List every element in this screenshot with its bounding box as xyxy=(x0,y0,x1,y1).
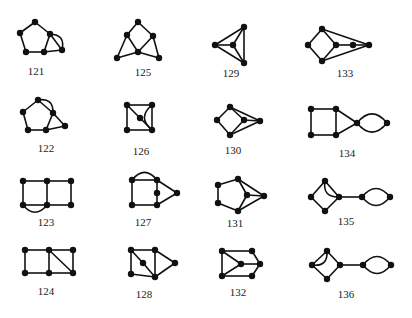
vertex-dot xyxy=(59,47,65,53)
vertex-dot xyxy=(129,177,135,183)
vertex-dot xyxy=(319,58,325,64)
vertex-dot xyxy=(336,194,342,200)
vertex-dot xyxy=(308,106,314,112)
vertex-dot xyxy=(235,176,241,182)
graph-number-label: 129 xyxy=(223,67,240,79)
vertex-dot xyxy=(46,270,52,276)
multi-edge-arc xyxy=(362,188,390,197)
vertex-dot xyxy=(35,97,41,103)
vertex-dot xyxy=(214,117,220,123)
edge xyxy=(215,27,244,45)
graph-number-label: 126 xyxy=(133,145,150,157)
edge xyxy=(222,251,241,264)
vertex-dot xyxy=(70,270,76,276)
vertex-dot xyxy=(249,273,255,279)
vertex-dot xyxy=(124,32,130,38)
vertex-dot xyxy=(124,127,130,133)
vertex-dot xyxy=(212,42,218,48)
multi-edge-arc xyxy=(357,114,387,123)
vertex-dot xyxy=(230,42,236,48)
edge xyxy=(138,36,153,52)
vertex-dot xyxy=(128,271,134,277)
graph-126: 126 xyxy=(124,102,155,157)
vertex-dot xyxy=(172,260,178,266)
vertex-dot xyxy=(241,24,247,30)
vertex-dot xyxy=(135,49,141,55)
vertex-dot xyxy=(261,193,267,199)
vertex-dot xyxy=(114,55,120,61)
vertex-dot xyxy=(333,42,339,48)
edge xyxy=(155,263,175,277)
vertex-dot xyxy=(219,273,225,279)
graph-125: 125 xyxy=(114,19,162,78)
edge xyxy=(222,264,241,276)
vertex-dot xyxy=(47,31,53,37)
edge xyxy=(230,121,260,135)
vertex-dot xyxy=(227,104,233,110)
edge xyxy=(117,52,138,58)
vertex-dot xyxy=(354,120,360,126)
vertex-dot xyxy=(235,208,241,214)
multi-edge-arc xyxy=(363,256,391,265)
vertex-dot xyxy=(360,262,366,268)
graph-number-label: 130 xyxy=(225,144,242,156)
vertex-dot xyxy=(241,117,247,123)
multi-edge-arc xyxy=(362,197,390,206)
vertex-dot xyxy=(324,248,330,254)
graph-number-label: 132 xyxy=(230,286,247,298)
graph-number-label: 134 xyxy=(339,147,356,159)
vertex-dot xyxy=(366,42,372,48)
edge xyxy=(336,123,357,135)
vertex-dot xyxy=(154,190,160,196)
vertex-dot xyxy=(257,118,263,124)
vertex-dot xyxy=(257,261,263,267)
graph-124: 124 xyxy=(22,247,76,297)
vertex-dot xyxy=(46,247,52,253)
vertex-dot xyxy=(388,262,394,268)
vertex-dot xyxy=(154,177,160,183)
vertex-dot xyxy=(308,194,314,200)
graph-135: 135 xyxy=(308,178,393,227)
vertex-dot xyxy=(322,208,328,214)
graph-121: 121 xyxy=(17,19,65,77)
vertex-dot xyxy=(322,178,328,184)
edge xyxy=(157,193,177,205)
graph-128: 128 xyxy=(128,247,178,300)
graph-136: 136 xyxy=(309,248,394,300)
graph-number-label: 136 xyxy=(338,288,355,300)
graph-number-label: 131 xyxy=(227,217,244,229)
vertex-dot xyxy=(350,42,356,48)
graph-number-label: 128 xyxy=(136,288,153,300)
vertex-dot xyxy=(62,123,68,129)
multi-edge-arc xyxy=(357,123,387,132)
vertex-dot xyxy=(244,192,250,198)
graph-132: 132 xyxy=(219,248,263,298)
vertex-dot xyxy=(41,49,47,55)
edge xyxy=(155,250,175,263)
graph-number-label: 125 xyxy=(135,66,152,78)
graph-figure: 1211251291331221261301341231271311351241… xyxy=(0,0,412,318)
vertex-dot xyxy=(174,190,180,196)
graph-number-label: 135 xyxy=(338,215,355,227)
graph-133: 133 xyxy=(305,26,372,79)
vertex-dot xyxy=(154,202,160,208)
vertex-dot xyxy=(249,248,255,254)
graph-number-label: 127 xyxy=(135,216,152,228)
vertex-dot xyxy=(149,102,155,108)
graph-number-label: 124 xyxy=(38,285,55,297)
graph-130: 130 xyxy=(214,104,263,156)
edge xyxy=(218,203,238,211)
vertex-dot xyxy=(44,202,50,208)
vertex-dot xyxy=(149,127,155,133)
edge xyxy=(157,180,177,193)
vertex-dot xyxy=(308,132,314,138)
vertex-dot xyxy=(305,42,311,48)
edge xyxy=(153,36,159,58)
graph-122: 122 xyxy=(20,97,68,154)
vertex-dot xyxy=(128,247,134,253)
vertex-dot xyxy=(32,19,38,25)
graph-123: 123 xyxy=(20,178,74,228)
multi-edge-arc xyxy=(132,172,157,180)
vertex-dot xyxy=(124,102,130,108)
vertex-dot xyxy=(238,261,244,267)
